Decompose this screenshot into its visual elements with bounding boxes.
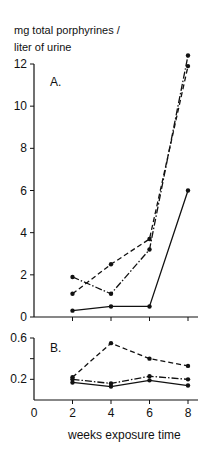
data-point bbox=[186, 188, 190, 192]
data-point bbox=[70, 292, 74, 296]
series-line-dashed bbox=[73, 66, 189, 294]
panel-a-series bbox=[70, 53, 190, 313]
y-tick-label: 10 bbox=[14, 99, 28, 113]
data-point bbox=[70, 308, 74, 312]
panel-a: A. 024681012 bbox=[14, 53, 198, 324]
panel-a-label: A. bbox=[50, 75, 61, 89]
panel-b-label: B. bbox=[50, 341, 61, 355]
data-point bbox=[109, 292, 113, 296]
series-line-dash-dot bbox=[73, 56, 189, 294]
data-point bbox=[186, 383, 190, 387]
x-tick-label: 6 bbox=[146, 406, 153, 420]
panel-a-y-ticks: 024681012 bbox=[14, 57, 34, 324]
y-tick-label: 0 bbox=[20, 310, 27, 324]
y-tick-label: 6 bbox=[20, 184, 27, 198]
x-axis-label: weeks exposure time bbox=[68, 428, 181, 442]
y-tick-label: 0.6 bbox=[10, 331, 27, 345]
series-line-solid bbox=[73, 191, 189, 311]
y-tick-label: 2 bbox=[20, 268, 27, 282]
data-point bbox=[147, 378, 151, 382]
y-tick-label: 4 bbox=[20, 226, 27, 240]
data-point bbox=[70, 275, 74, 279]
data-point bbox=[109, 262, 113, 266]
panel-b-series bbox=[70, 341, 190, 389]
data-point bbox=[147, 247, 151, 251]
data-point bbox=[186, 377, 190, 381]
x-tick-label: 8 bbox=[185, 406, 192, 420]
data-point bbox=[109, 304, 113, 308]
y-tick-label: 0.2 bbox=[10, 372, 27, 386]
series-line-dashed bbox=[73, 343, 189, 377]
x-tick-label: 0 bbox=[31, 406, 38, 420]
y-tick-label: 12 bbox=[14, 57, 28, 71]
data-point bbox=[186, 53, 190, 57]
x-tick-label: 4 bbox=[108, 406, 115, 420]
data-point bbox=[109, 341, 113, 345]
data-point bbox=[147, 374, 151, 378]
chart-svg: A. 024681012 B. 0.20.6 02468 bbox=[0, 0, 212, 450]
y-tick-label: 8 bbox=[20, 141, 27, 155]
series-line-dash-dot bbox=[73, 376, 189, 383]
panel-b: B. 0.20.6 02468 bbox=[10, 331, 198, 420]
data-point bbox=[147, 356, 151, 360]
x-tick-label: 2 bbox=[69, 406, 76, 420]
panel-b-y-ticks: 0.20.6 bbox=[10, 331, 34, 386]
data-point bbox=[109, 381, 113, 385]
data-point bbox=[70, 377, 74, 381]
panel-b-x-ticks: 02468 bbox=[31, 400, 192, 420]
data-point bbox=[147, 304, 151, 308]
data-point bbox=[186, 364, 190, 368]
